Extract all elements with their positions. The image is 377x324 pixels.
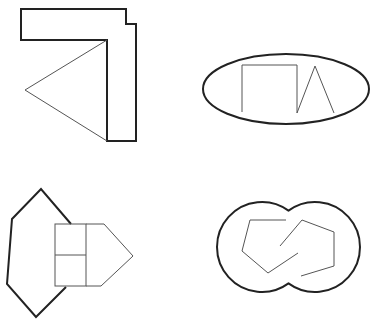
polyline-left [242,220,298,273]
triangle-outline [25,40,107,141]
figure-bottom-right [217,202,360,292]
figure-bottom-left [7,189,133,317]
hexagon-outline [7,189,71,317]
inner-strokes [242,65,334,113]
figure-top-left [21,9,136,141]
diagram-canvas [0,0,377,324]
pentagon-outline [86,224,133,286]
figure-top-right [203,54,369,124]
double-circle-outline [217,202,360,292]
l-shape-outline [21,9,136,141]
polyline-right [280,220,334,276]
